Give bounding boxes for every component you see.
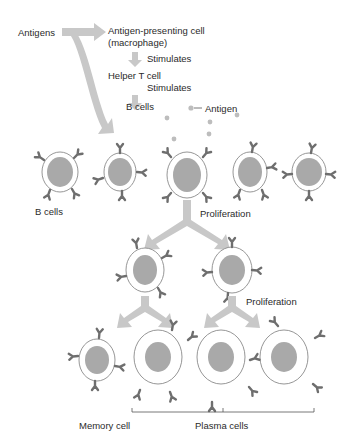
b-cell-5 xyxy=(283,144,335,200)
arrow-apc-to-helper xyxy=(128,52,142,67)
memory-cell xyxy=(69,329,125,390)
stimulates-label-1: Stimulates xyxy=(147,53,191,64)
second-row-cells xyxy=(117,238,262,302)
plasma-cell-3 xyxy=(260,330,308,384)
proliferation-label-2: Proliferation xyxy=(246,296,297,307)
arrow-antigens-to-bcells xyxy=(66,30,114,134)
b-cells-row-label: B cells xyxy=(35,206,63,217)
antigens-label: Antigens xyxy=(18,27,55,38)
b-cell-3 xyxy=(163,148,211,202)
plasma-cell-1 xyxy=(134,330,182,384)
proliferation-label-1: Proliferation xyxy=(200,208,251,219)
plasma-bracket xyxy=(132,408,314,412)
plasma-cells-label: Plasma cells xyxy=(195,420,248,431)
apc-sub-label: (macrophage) xyxy=(108,37,167,48)
immune-response-diagram xyxy=(0,0,353,446)
helper-t-label: Helper T cell xyxy=(108,70,161,81)
b-cell-4 xyxy=(233,143,276,200)
b-cell-row xyxy=(35,143,335,202)
proliferation-arrow-2a xyxy=(117,296,173,328)
b-cell-2 xyxy=(94,144,147,200)
memory-cell-label: Memory cell xyxy=(79,420,130,431)
antigen-label: Antigen xyxy=(205,103,237,114)
b-cells-top-label: B cells xyxy=(126,101,154,112)
bottom-row-cells xyxy=(69,317,325,411)
stimulates-label-2: Stimulates xyxy=(147,82,191,93)
apc-label: Antigen-presenting cell xyxy=(108,25,205,36)
b-cell-1 xyxy=(35,150,83,200)
plasma-cell-2 xyxy=(197,330,245,384)
